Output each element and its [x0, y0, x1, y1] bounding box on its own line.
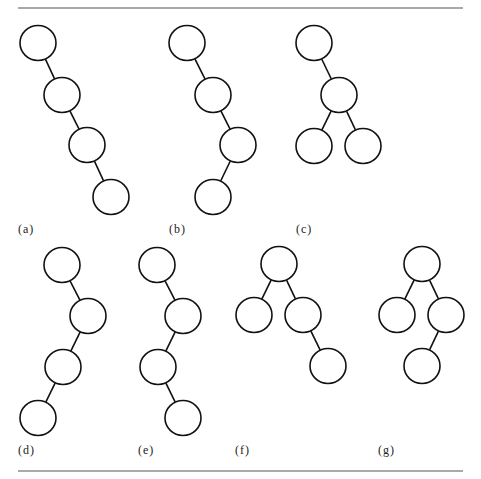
tree-node	[195, 180, 231, 215]
tree-label: (a)	[18, 222, 34, 236]
tree-node	[428, 298, 464, 333]
tree-label: (e)	[138, 443, 154, 457]
tree-edge	[262, 280, 271, 299]
tree-node	[139, 248, 175, 283]
tree-c: (c)	[296, 26, 381, 237]
tree-edge	[46, 383, 55, 402]
tree-node	[140, 350, 176, 385]
tree-node	[310, 349, 346, 384]
tree-node	[220, 128, 256, 163]
tree-node	[44, 248, 80, 283]
tree-node	[20, 401, 56, 436]
tree-node	[296, 129, 332, 164]
tree-edge	[287, 280, 296, 298]
tree-node	[169, 26, 205, 61]
horizontal-rules	[18, 8, 463, 471]
tree-edge	[166, 332, 175, 351]
tree-node	[285, 298, 321, 333]
tree-edge	[405, 280, 414, 299]
tree-d: (d)	[18, 248, 106, 458]
tree-edge	[322, 111, 331, 130]
tree-node	[345, 129, 381, 164]
tree-node	[261, 247, 297, 282]
tree-node	[321, 78, 357, 113]
tree-node	[296, 26, 332, 61]
tree-f: (f)	[235, 247, 346, 458]
tree-node	[69, 128, 105, 163]
tree-edge	[430, 331, 439, 349]
tree-e: (e)	[138, 248, 201, 458]
tree-edge	[221, 111, 230, 129]
tree-edge	[322, 59, 331, 79]
tree-edge	[166, 383, 175, 402]
tree-edge	[71, 332, 80, 351]
tree-label: (b)	[169, 222, 186, 236]
tree-node	[45, 350, 81, 385]
tree-edge	[430, 280, 439, 298]
tree-label: (f)	[235, 443, 250, 457]
tree-node	[165, 299, 201, 334]
tree-edge	[347, 111, 356, 129]
tree-edge	[165, 281, 175, 300]
tree-a: (a)	[18, 26, 129, 237]
tree-node	[404, 247, 440, 282]
tree-node	[70, 299, 106, 334]
binary-trees-diagram: (a)(b)(c)(d)(e)(f)(g)	[0, 0, 481, 479]
tree-edge	[95, 161, 104, 180]
tree-edge	[221, 161, 230, 181]
tree-edge	[70, 111, 79, 129]
tree-b: (b)	[169, 26, 256, 237]
tree-node	[379, 298, 415, 333]
trees-group: (a)(b)(c)(d)(e)(f)(g)	[18, 26, 464, 458]
tree-node	[195, 78, 231, 113]
tree-edge	[46, 59, 55, 78]
tree-edge	[70, 281, 80, 300]
tree-edge	[195, 59, 205, 79]
tree-label: (c)	[296, 222, 312, 236]
tree-g: (g)	[378, 247, 464, 458]
tree-label: (g)	[378, 443, 395, 457]
tree-node	[165, 401, 201, 436]
tree-node	[20, 26, 56, 61]
tree-node	[236, 298, 272, 333]
tree-node	[93, 180, 129, 215]
tree-node	[44, 78, 80, 113]
tree-edge	[311, 331, 320, 350]
tree-node	[404, 349, 440, 384]
tree-label: (d)	[18, 443, 35, 457]
